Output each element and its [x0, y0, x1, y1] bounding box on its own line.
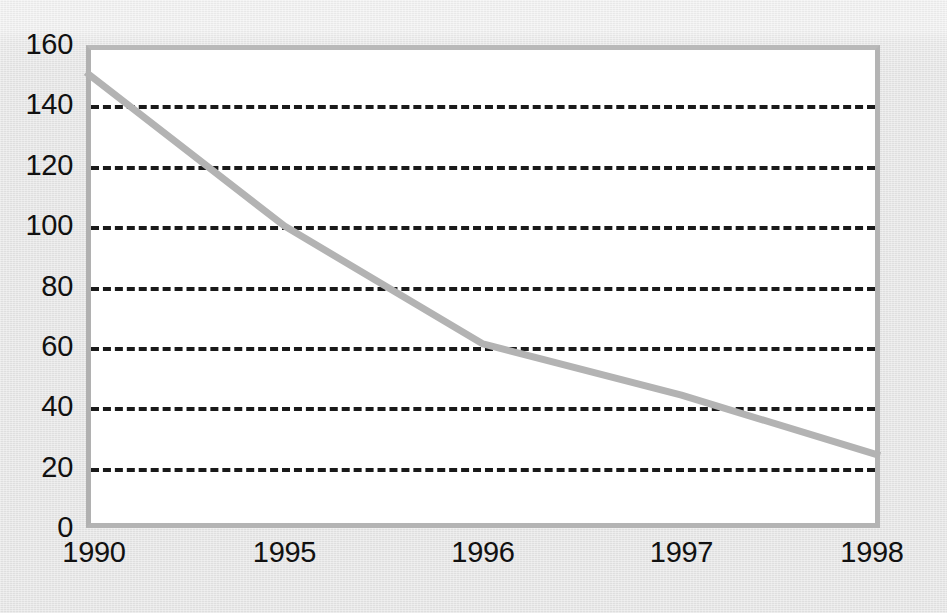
- line-chart: 020406080100120140160 199019951996199719…: [0, 0, 947, 613]
- gridline: [91, 287, 875, 291]
- y-axis-tick-label: 60: [41, 332, 73, 361]
- y-axis-tick-label: 20: [41, 453, 73, 482]
- x-axis-tick-label: 1990: [62, 538, 125, 567]
- gridline: [91, 407, 875, 411]
- y-axis-tick-label: 140: [26, 90, 74, 119]
- y-axis-tick-label: 160: [26, 30, 74, 59]
- gridline: [91, 226, 875, 230]
- y-axis-tick-label: 80: [41, 272, 73, 301]
- y-axis-tick-label: 120: [26, 151, 74, 180]
- x-axis-tick-label: 1996: [451, 538, 514, 567]
- gridline: [91, 166, 875, 170]
- x-axis-tick-label: 1995: [253, 538, 316, 567]
- y-axis-tick-label: 100: [26, 211, 74, 240]
- x-axis-tick-label: 1998: [840, 538, 903, 567]
- x-axis-tick-label: 1997: [650, 538, 713, 567]
- gridline: [91, 105, 875, 109]
- gridline: [91, 468, 875, 472]
- y-axis-tick-label: 40: [41, 392, 73, 421]
- gridline: [91, 347, 875, 351]
